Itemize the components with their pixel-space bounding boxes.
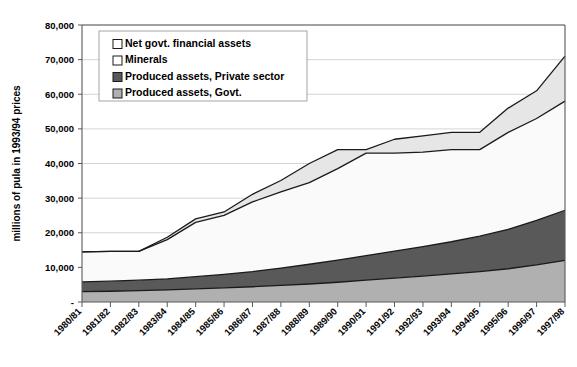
legend-label-0: Net govt. financial assets <box>125 37 251 49</box>
legend-label-3: Produced assets, Govt. <box>125 86 242 98</box>
legend-swatch-2 <box>113 73 122 82</box>
y-axis-tick-label: - <box>71 297 74 308</box>
x-axis-tick-label: 1993/94 <box>421 305 454 338</box>
x-axis-tick-label: 1994/95 <box>449 305 482 338</box>
chart-canvas: -10,00020,00030,00040,00050,00060,00070,… <box>0 0 577 367</box>
x-axis-tick-label: 1985/86 <box>193 306 225 338</box>
x-axis-tick-label: 1995/96 <box>478 306 510 338</box>
legend-swatch-3 <box>113 89 122 98</box>
x-axis-tick-label: 1982/83 <box>108 306 140 338</box>
y-axis-tick-label: 30,000 <box>45 193 74 204</box>
x-axis-tick-label: 1990/91 <box>335 305 368 338</box>
y-axis-tick-label: 20,000 <box>45 227 74 238</box>
stacked-area-chart: -10,00020,00030,00040,00050,00060,00070,… <box>0 0 577 367</box>
y-axis-tick-label: 50,000 <box>45 123 74 134</box>
x-axis-tick-label: 1989/90 <box>307 306 339 338</box>
legend-swatch-0 <box>113 40 122 49</box>
x-axis-tick-label: 1992/93 <box>392 306 424 338</box>
x-axis-tick-label: 1981/82 <box>80 306 112 338</box>
y-axis-ticks: -10,00020,00030,00040,00050,00060,00070,… <box>45 20 82 308</box>
x-axis-tick-label: 1988/89 <box>279 306 311 338</box>
legend-label-2: Produced assets, Private sector <box>125 70 284 82</box>
legend-label-1: Minerals <box>125 53 168 65</box>
y-axis-title: millions of pula in 1993/94 prices <box>11 85 22 242</box>
x-axis-tick-label: 1984/85 <box>165 305 198 338</box>
y-axis-tick-label: 60,000 <box>45 89 74 100</box>
y-axis-tick-label: 10,000 <box>45 262 74 273</box>
x-axis-tick-label: 1983/84 <box>137 305 170 338</box>
chart-legend: Net govt. financial assetsMineralsProduc… <box>99 31 307 101</box>
x-axis-tick-label: 1997/98 <box>534 306 566 338</box>
x-axis-tick-label: 1991/92 <box>364 306 396 338</box>
legend-swatch-1 <box>113 56 122 65</box>
x-axis-tick-label: 1987/88 <box>250 306 282 338</box>
x-axis-tick-label: 1996/97 <box>506 306 538 338</box>
x-axis-ticks: 1980/811981/821982/831983/841984/851985/… <box>51 302 566 338</box>
y-axis-title: millions of pula in 1993/94 prices <box>11 85 22 242</box>
x-axis-tick-label: 1980/81 <box>51 305 84 338</box>
y-axis-tick-label: 80,000 <box>45 20 74 31</box>
y-axis-tick-label: 70,000 <box>45 54 74 65</box>
x-axis-tick-label: 1986/87 <box>222 306 254 338</box>
y-axis-tick-label: 40,000 <box>45 158 74 169</box>
